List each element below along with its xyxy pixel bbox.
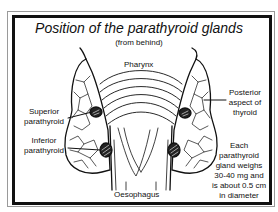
label-posterior-aspect-thyroid: Posterior aspect of thyroid <box>224 88 266 118</box>
label-inferior-parathyroid: Inferior parathyroid <box>18 136 70 156</box>
superior-parathyroid-right <box>179 108 191 118</box>
note-gland-size: Each parathyroid gland weighs 30-40 mg a… <box>208 141 270 201</box>
label-oesophagus: Oesophagus <box>114 190 159 200</box>
label-superior-parathyroid: Superior parathyroid <box>18 107 70 127</box>
label-pharynx: Pharynx <box>124 60 153 70</box>
